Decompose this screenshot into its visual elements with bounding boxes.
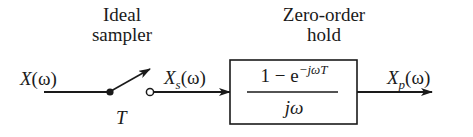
input-signal-name: X — [20, 68, 32, 89]
numerator-prefix: 1 − e — [261, 65, 299, 86]
input-signal-label: X(ω) — [20, 69, 57, 88]
switch-contact-circle — [146, 88, 153, 95]
sampled-signal-subscript: s — [176, 77, 181, 92]
output-signal-subscript: p — [399, 77, 406, 92]
output-signal-arg: (ω) — [405, 67, 430, 88]
sampler-title-line1: Ideal — [103, 5, 141, 24]
sampled-signal-arg: (ω) — [181, 67, 206, 88]
transfer-function-numerator: 1 − e−jωT — [232, 65, 356, 87]
sampling-period-label: T — [116, 108, 127, 127]
output-signal-label: Xp(ω) — [387, 68, 430, 87]
sampled-signal-label: Xs(ω) — [164, 68, 206, 87]
output-signal-name: X — [387, 67, 399, 88]
transfer-function-denominator: jω — [232, 97, 356, 119]
sampler-title-line2: sampler — [92, 25, 152, 44]
input-signal-arg: (ω) — [32, 68, 57, 89]
sampled-signal-name: X — [164, 67, 176, 88]
hold-title-line2: hold — [307, 25, 341, 44]
switch-arm-arrow — [111, 69, 150, 91]
hold-title-line1: Zero-order — [283, 5, 365, 24]
numerator-exponent: −jωT — [299, 62, 328, 77]
